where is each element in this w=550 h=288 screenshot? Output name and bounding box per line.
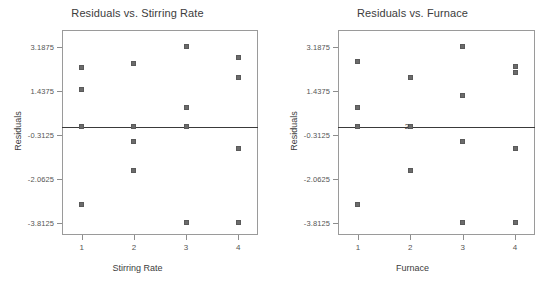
zero-reference-line	[62, 127, 258, 128]
y-axis-tick-label: -3.8125	[28, 218, 54, 227]
x-axis-tick-mark	[463, 235, 464, 240]
x-axis-tick-mark	[238, 235, 239, 240]
x-axis-tick-mark	[515, 235, 516, 240]
y-axis-tick-label: -0.3125	[304, 130, 330, 139]
data-point-marker	[131, 124, 136, 129]
y-axis-tick-label: -0.3125	[28, 130, 54, 139]
y-axis-tick-mark	[57, 179, 62, 180]
plot-area	[338, 30, 535, 235]
data-point-marker	[460, 220, 465, 225]
chart-panel-stirring-rate: Residuals vs. Stirring Rate Stirring Rat…	[0, 0, 275, 288]
data-point-marker	[408, 168, 413, 173]
data-point-marker	[513, 146, 518, 151]
x-axis-tick-label: 4	[236, 243, 240, 252]
y-axis-tick-label: 3.1875	[306, 42, 330, 51]
y-axis-tick-label: 1.4375	[306, 86, 330, 95]
x-axis-tick-label: 3	[460, 243, 464, 252]
y-axis-tick-label: -2.0625	[28, 174, 54, 183]
y-axis-title: Residuals	[289, 101, 299, 161]
x-axis-tick-label: 1	[356, 243, 360, 252]
residual-plots-figure: Residuals vs. Stirring Rate Stirring Rat…	[0, 0, 550, 288]
plot-area	[62, 30, 258, 235]
x-axis-tick-label: 2	[132, 243, 136, 252]
data-point-marker	[236, 220, 241, 225]
data-point-marker	[131, 61, 136, 66]
data-point-marker	[355, 105, 360, 110]
x-axis-tick-label: 4	[513, 243, 517, 252]
data-point-marker	[184, 44, 189, 49]
overlap-count-label: 2	[405, 123, 409, 131]
y-axis-tick-label: 3.1875	[30, 42, 54, 51]
y-axis-tick-mark	[333, 179, 338, 180]
data-point-marker	[460, 44, 465, 49]
data-point-marker	[460, 93, 465, 98]
x-axis-tick-label: 1	[80, 243, 84, 252]
x-axis-tick-mark	[134, 235, 135, 240]
y-axis-tick-label: -3.8125	[304, 218, 330, 227]
x-axis-tick-mark	[186, 235, 187, 240]
data-point-marker	[184, 124, 189, 129]
y-axis-tick-mark	[333, 223, 338, 224]
y-axis-title: Residuals	[13, 101, 23, 161]
data-point-marker	[513, 64, 518, 69]
chart-title: Residuals vs. Stirring Rate	[0, 7, 275, 19]
data-point-marker	[79, 124, 84, 129]
data-point-marker	[355, 124, 360, 129]
data-point-marker	[460, 139, 465, 144]
data-point-marker	[236, 75, 241, 80]
y-axis-tick-label: -2.0625	[304, 174, 330, 183]
data-point-marker	[79, 202, 84, 207]
data-point-marker	[236, 55, 241, 60]
x-axis-tick-mark	[358, 235, 359, 240]
x-axis-tick-mark	[82, 235, 83, 240]
y-axis-tick-mark	[57, 91, 62, 92]
data-point-marker	[131, 139, 136, 144]
data-point-marker	[513, 220, 518, 225]
y-axis-tick-mark	[57, 47, 62, 48]
y-axis-tick-mark	[57, 135, 62, 136]
chart-title: Residuals vs. Furnace	[275, 7, 550, 19]
y-axis-tick-mark	[333, 135, 338, 136]
data-point-marker	[355, 59, 360, 64]
y-axis-tick-mark	[333, 47, 338, 48]
data-point-marker	[79, 87, 84, 92]
data-point-marker	[236, 146, 241, 151]
x-axis-title: Stirring Rate	[0, 263, 275, 273]
data-point-marker	[184, 220, 189, 225]
y-axis-tick-mark	[333, 91, 338, 92]
y-axis-tick-mark	[57, 223, 62, 224]
zero-reference-line	[338, 127, 535, 128]
data-point-marker	[355, 202, 360, 207]
data-point-marker	[131, 168, 136, 173]
data-point-marker	[184, 105, 189, 110]
x-axis-title: Furnace	[275, 263, 550, 273]
y-axis-tick-label: 1.4375	[30, 86, 54, 95]
x-axis-tick-label: 2	[408, 243, 412, 252]
data-point-marker	[513, 70, 518, 75]
data-point-marker	[79, 65, 84, 70]
data-point-marker	[408, 75, 413, 80]
x-axis-tick-mark	[410, 235, 411, 240]
chart-panel-furnace: Residuals vs. Furnace Furnace Residuals …	[275, 0, 550, 288]
x-axis-tick-label: 3	[184, 243, 188, 252]
